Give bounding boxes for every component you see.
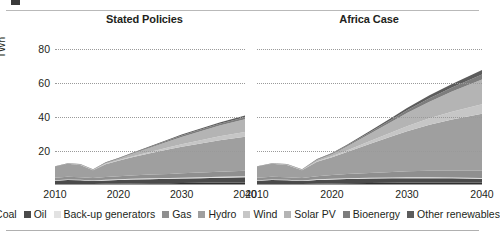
- legend-item-label: Coal: [0, 208, 17, 220]
- crop-mark: [11, 0, 20, 5]
- legend-item[interactable]: Wind: [243, 208, 277, 220]
- y-gridline: [257, 151, 482, 152]
- legend-swatch-icon: [284, 211, 291, 218]
- legend-swatch-icon: [162, 211, 169, 218]
- y-axis-tick-label: 20: [38, 145, 50, 157]
- x-axis-tick-label: 2010: [245, 188, 268, 200]
- bottom-divider: [6, 230, 479, 231]
- x-axis-line-right: [257, 184, 482, 185]
- y-gridline: [55, 83, 245, 84]
- y-axis-tick-label: 80: [38, 43, 50, 55]
- x-axis-line-left: [55, 184, 245, 185]
- legend-swatch-icon: [198, 211, 205, 218]
- legend-item-label: Oil: [34, 208, 47, 220]
- legend-item[interactable]: Bioenergy: [343, 208, 400, 220]
- y-gridline: [257, 83, 482, 84]
- legend-item[interactable]: Coal: [0, 208, 17, 220]
- x-axis-tick-label: 2040: [470, 188, 493, 200]
- y-gridline: [55, 49, 245, 50]
- y-gridline: [257, 49, 482, 50]
- legend-item-label: Wind: [253, 208, 277, 220]
- x-axis-tick-label: 2030: [395, 188, 418, 200]
- legend-item[interactable]: Gas: [162, 208, 191, 220]
- legend-item-label: Solar PV: [294, 208, 335, 220]
- legend-item[interactable]: Back-up generators: [54, 208, 156, 220]
- stacked-area-series: [257, 35, 482, 185]
- legend-item[interactable]: Other renewables: [407, 208, 500, 220]
- legend-swatch-icon: [407, 211, 414, 218]
- top-divider: [6, 10, 479, 11]
- panel-title-stated-policies: Stated Policies: [0, 13, 253, 25]
- legend-item[interactable]: Solar PV: [284, 208, 335, 220]
- legend-item[interactable]: Hydro: [198, 208, 236, 220]
- area-band: [257, 114, 482, 178]
- chart-legend: CoalOilBack-up generatorsGasHydroWindSol…: [0, 208, 485, 220]
- x-axis-tick-label: 2010: [43, 188, 66, 200]
- y-gridline: [55, 117, 245, 118]
- legend-item-label: Other renewables: [417, 208, 500, 220]
- chart-panel-stated-policies: Stated Policies TWh 20406080201020202030…: [0, 12, 253, 205]
- y-axis-tick-label: 60: [38, 77, 50, 89]
- y-gridline: [257, 117, 482, 118]
- y-axis-label-left: TWh: [0, 37, 7, 58]
- x-axis-tick-label: 2020: [320, 188, 343, 200]
- legend-swatch-icon: [243, 211, 250, 218]
- plot-area-africa-case: 2010202020302040: [257, 35, 482, 185]
- y-gridline: [55, 151, 245, 152]
- chart-panel-africa-case: Africa Case 2010202020302040: [253, 12, 485, 205]
- stacked-area-series: [55, 35, 245, 185]
- legend-swatch-icon: [54, 211, 61, 218]
- y-axis-tick-label: 40: [38, 111, 50, 123]
- chart-panels: Stated Policies TWh 20406080201020202030…: [0, 12, 485, 205]
- legend-item-label: Hydro: [208, 208, 236, 220]
- x-axis-tick-label: 2020: [107, 188, 130, 200]
- legend-item[interactable]: Oil: [24, 208, 47, 220]
- x-axis-tick-label: 2030: [170, 188, 193, 200]
- legend-item-label: Gas: [172, 208, 191, 220]
- plot-area-stated-policies: 204060802010202020302040: [55, 35, 245, 185]
- legend-item-label: Bioenergy: [353, 208, 400, 220]
- legend-item-label: Back-up generators: [64, 208, 156, 220]
- legend-swatch-icon: [24, 211, 31, 218]
- legend-swatch-icon: [343, 211, 350, 218]
- panel-title-africa-case: Africa Case: [253, 13, 485, 25]
